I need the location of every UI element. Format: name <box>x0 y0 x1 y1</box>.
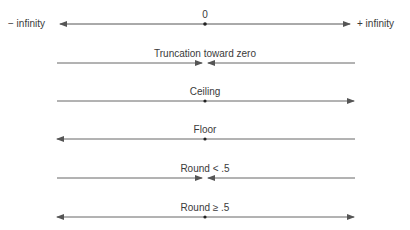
zero-label: 0 <box>202 9 208 20</box>
floor-line <box>57 137 355 140</box>
truncation-label: Truncation toward zero <box>154 48 256 59</box>
rounding-diagram <box>0 0 410 230</box>
ceiling-line <box>57 99 354 102</box>
positive-infinity-label: + infinity <box>357 18 394 29</box>
round-half-up-label: Round ≥ .5 <box>181 202 230 213</box>
zero-dot <box>203 22 207 26</box>
main-number-line <box>60 22 350 26</box>
round-below-half-label: Round < .5 <box>180 163 229 174</box>
floor-label: Floor <box>194 124 217 135</box>
negative-infinity-label: − infinity <box>8 18 45 29</box>
ceiling-label: Ceiling <box>190 86 221 97</box>
round-half-up-line <box>57 215 354 218</box>
